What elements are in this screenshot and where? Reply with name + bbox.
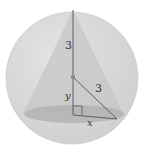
label-upper-segment: 3	[65, 39, 72, 52]
label-height-y: y	[64, 90, 71, 101]
label-radius-segment: 3	[95, 82, 102, 95]
label-base-radius-x: x	[87, 117, 93, 128]
cone-in-sphere-diagram: 3 3 y x	[0, 0, 144, 147]
sphere-center-dot	[71, 75, 75, 79]
cone-base	[24, 105, 124, 123]
